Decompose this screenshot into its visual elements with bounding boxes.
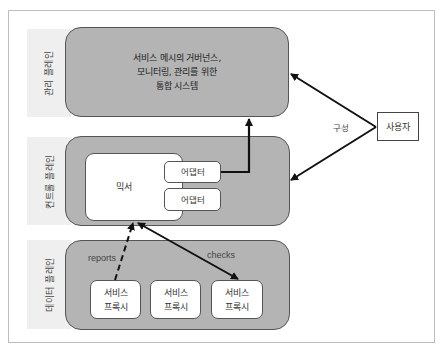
service-proxy-1: 서비스프록시 [90,280,141,319]
management-plane-box: 서비스 메시의 거버넌스, 모니터링, 관리를 위한 통합 시스템 [65,27,289,117]
description-line: 모니터링, 관리를 위한 [133,65,222,79]
proxy-label: 프록시 [225,300,249,314]
description-line: 통합 시스템 [133,79,222,93]
service-proxy-3: 서비스프록시 [211,280,263,319]
reports-label: reports [88,253,116,263]
description-line: 서비스 메시의 거버넌스, [133,51,222,65]
proxy-label: 프록시 [164,300,188,314]
adapter-box-2: 어댑터 [164,188,221,211]
proxy-label: 서비스 [164,286,188,300]
adapter-label: 어댑터 [181,193,205,207]
management-plane-label: 관리 플레인 [43,50,56,96]
proxy-label: 서비스 [104,286,128,300]
adapter-label: 어댑터 [181,165,205,179]
user-box: 사용자 [377,112,419,141]
control-plane-label: 컨트롤 플레인 [43,154,56,208]
checks-label: checks [207,250,235,260]
proxy-label: 서비스 [225,286,249,300]
service-proxy-2: 서비스프록시 [150,280,201,319]
data-plane-label: 데이터 플레인 [43,257,56,311]
mixer-label: 믹서 [116,180,132,194]
adapter-box-1: 어댑터 [164,161,221,183]
management-plane-description: 서비스 메시의 거버넌스, 모니터링, 관리를 위한 통합 시스템 [66,28,288,116]
user-label: 사용자 [386,120,410,133]
proxy-label: 프록시 [104,300,128,314]
configure-label: 구성 [333,121,349,133]
